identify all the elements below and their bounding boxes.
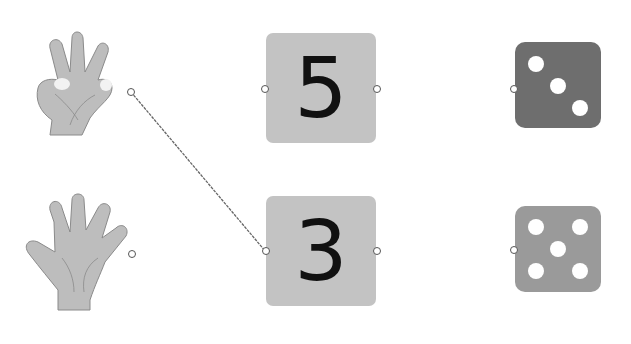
hand-five-node[interactable]	[128, 250, 136, 258]
number-three-left-node[interactable]	[262, 247, 270, 255]
die-three	[515, 42, 601, 128]
number-five-label: 5	[294, 46, 347, 130]
pip	[572, 263, 588, 279]
die-five	[515, 206, 601, 292]
hand-three-node[interactable]	[127, 88, 135, 96]
die-three-node[interactable]	[510, 85, 518, 93]
number-three-right-node[interactable]	[373, 247, 381, 255]
pip	[528, 219, 544, 235]
number-five-right-node[interactable]	[373, 85, 381, 93]
number-three-label: 3	[294, 209, 347, 293]
number-card-five: 5	[266, 33, 376, 143]
pip	[528, 263, 544, 279]
pip	[572, 219, 588, 235]
pip	[528, 56, 544, 72]
pip	[550, 78, 566, 94]
number-five-left-node[interactable]	[261, 85, 269, 93]
number-card-three: 3	[266, 196, 376, 306]
pip	[572, 100, 588, 116]
pip	[550, 241, 566, 257]
die-five-node[interactable]	[510, 246, 518, 254]
